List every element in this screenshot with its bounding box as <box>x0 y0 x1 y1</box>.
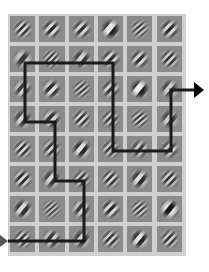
end-arrow-icon <box>194 82 204 98</box>
gabor-patch <box>157 166 182 192</box>
gabor-patch <box>127 166 152 192</box>
gabor-patch <box>69 76 94 102</box>
gabor-patch <box>157 136 182 162</box>
gabor-path-diagram <box>0 0 209 272</box>
gabor-patch <box>10 226 35 252</box>
gabor-patch <box>69 226 94 252</box>
gabor-patch <box>98 46 123 72</box>
gabor-patch <box>157 46 182 72</box>
gabor-patch <box>69 16 94 42</box>
gabor-patch <box>10 106 35 132</box>
gabor-patch <box>69 166 94 192</box>
gabor-patch <box>39 16 64 42</box>
gabor-patch <box>157 16 182 42</box>
gabor-patch <box>127 196 152 222</box>
gabor-patch <box>98 76 123 102</box>
gabor-patch <box>157 226 182 252</box>
gabor-patch <box>39 136 64 162</box>
gabor-patch <box>127 76 152 102</box>
gabor-patch <box>10 166 35 192</box>
gabor-patch <box>127 136 152 162</box>
gabor-patch <box>39 166 64 192</box>
gabor-patch <box>127 46 152 72</box>
gabor-patch <box>127 16 152 42</box>
gabor-patch <box>98 136 123 162</box>
gabor-patch <box>10 136 35 162</box>
gabor-patch <box>157 196 182 222</box>
gabor-patch <box>39 46 64 72</box>
gabor-patch <box>39 106 64 132</box>
gabor-patch <box>69 136 94 162</box>
gabor-patch <box>10 46 35 72</box>
gabor-patch <box>98 16 123 42</box>
gabor-patch <box>127 226 152 252</box>
gabor-patch <box>10 196 35 222</box>
gabor-patch <box>39 196 64 222</box>
gabor-patch <box>98 196 123 222</box>
gabor-patch <box>98 166 123 192</box>
gabor-patch <box>39 226 64 252</box>
gabor-patch <box>157 76 182 102</box>
gabor-patch <box>98 106 123 132</box>
gabor-patch <box>10 76 35 102</box>
start-arrow-icon <box>0 232 8 250</box>
gabor-patch <box>69 106 94 132</box>
gabor-patch <box>69 196 94 222</box>
gabor-patch <box>157 106 182 132</box>
gabor-patch <box>69 46 94 72</box>
gabor-patch <box>39 76 64 102</box>
gabor-patch <box>127 106 152 132</box>
gabor-patch <box>10 16 35 42</box>
gabor-patch <box>98 226 123 252</box>
